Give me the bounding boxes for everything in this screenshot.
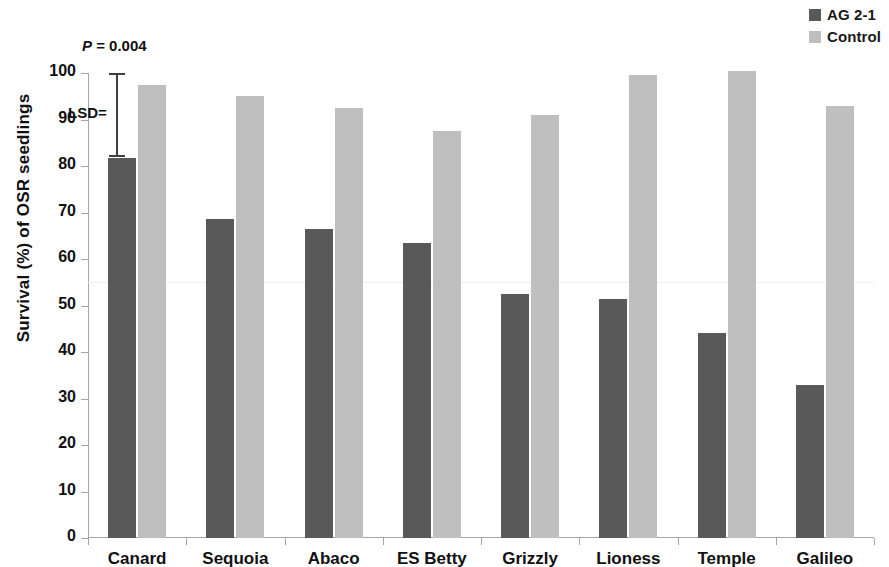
- legend-item-control: Control: [809, 28, 881, 45]
- chart-legend: AG 2-1 Control: [809, 6, 881, 45]
- y-tick-label: 0: [32, 527, 76, 545]
- p-value-number: = 0.004: [92, 37, 147, 54]
- bar-galileo-ag-2-1: [796, 385, 824, 538]
- y-tick-mark: [81, 352, 88, 353]
- lsd-cap-bottom: [109, 155, 125, 157]
- y-tick-label: 60: [32, 248, 76, 266]
- y-tick-mark: [81, 445, 88, 446]
- bar-grizzly-ag-2-1: [501, 294, 529, 538]
- x-tick-mark: [88, 538, 89, 545]
- y-tick-label: 20: [32, 434, 76, 452]
- y-tick-label: 30: [32, 388, 76, 406]
- y-tick-mark: [81, 538, 88, 539]
- y-tick-mark: [81, 306, 88, 307]
- p-value-symbol: P: [82, 37, 92, 54]
- bar-canard-control: [138, 85, 166, 538]
- bar-es-betty-control: [433, 131, 461, 538]
- x-tick-mark: [383, 538, 384, 545]
- y-tick-mark: [81, 213, 88, 214]
- y-tick-mark: [81, 166, 88, 167]
- y-tick-mark: [81, 492, 88, 493]
- y-axis-title: Survival (%) of OSR seedlings: [14, 0, 34, 438]
- p-value-annotation: P = 0.004: [82, 37, 147, 54]
- y-tick-label: 40: [32, 341, 76, 359]
- y-tick-label: 80: [32, 155, 76, 173]
- x-tick-mark: [579, 538, 580, 545]
- plot-area: 1009080706050403020100 LSD=: [88, 73, 874, 538]
- y-tick-label: 70: [32, 202, 76, 220]
- bar-temple-ag-2-1: [698, 333, 726, 538]
- x-tick-mark: [481, 538, 482, 545]
- bar-temple-control: [728, 71, 756, 538]
- y-tick-label: 100: [32, 62, 76, 80]
- legend-swatch-ag-2-1: [809, 9, 821, 21]
- x-category-label-galileo: Galileo: [745, 549, 889, 567]
- y-tick-label: 10: [32, 481, 76, 499]
- y-axis-line: [88, 73, 89, 538]
- bar-lioness-control: [629, 75, 657, 538]
- bar-grizzly-control: [531, 115, 559, 538]
- x-tick-mark: [874, 538, 875, 545]
- y-tick-mark: [81, 399, 88, 400]
- legend-label-ag-2-1: AG 2-1: [827, 6, 876, 23]
- lsd-stem: [116, 73, 118, 157]
- bar-abaco-control: [335, 108, 363, 538]
- bar-canard-ag-2-1: [108, 158, 136, 538]
- bar-abaco-ag-2-1: [305, 229, 333, 538]
- lsd-label: LSD=: [68, 104, 107, 121]
- bar-es-betty-ag-2-1: [403, 243, 431, 538]
- bar-sequoia-control: [236, 96, 264, 538]
- bar-galileo-control: [826, 106, 854, 538]
- bar-lioness-ag-2-1: [599, 299, 627, 538]
- x-tick-mark: [776, 538, 777, 545]
- legend-label-control: Control: [827, 28, 881, 45]
- legend-swatch-control: [809, 31, 821, 43]
- x-tick-mark: [186, 538, 187, 545]
- y-tick-label: 50: [32, 295, 76, 313]
- bar-chart-figure: AG 2-1 Control Survival (%) of OSR seedl…: [0, 0, 889, 567]
- legend-item-ag-2-1: AG 2-1: [809, 6, 876, 23]
- bar-sequoia-ag-2-1: [206, 219, 234, 538]
- x-tick-mark: [285, 538, 286, 545]
- y-tick-mark: [81, 259, 88, 260]
- lsd-error-bar: [109, 73, 125, 157]
- x-tick-mark: [678, 538, 679, 545]
- y-tick-mark: [81, 73, 88, 74]
